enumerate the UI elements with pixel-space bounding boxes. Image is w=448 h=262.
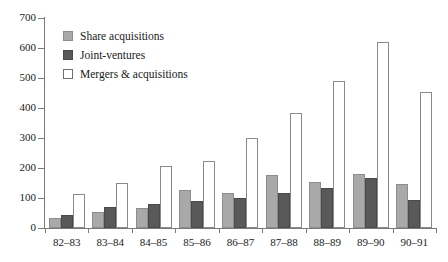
x-axis-label: 88–89 — [306, 236, 349, 248]
x-axis-tick-marks — [45, 228, 436, 233]
y-axis-tick — [38, 18, 44, 19]
x-axis-tick — [436, 228, 437, 233]
bar-group — [262, 18, 305, 228]
bar-ma — [377, 42, 389, 228]
x-axis-label: 85–86 — [175, 236, 218, 248]
x-axis-tick — [306, 228, 307, 233]
bar-jv — [234, 198, 246, 228]
bar-group — [88, 18, 131, 228]
bar-group — [393, 18, 436, 228]
bar-share — [179, 190, 191, 228]
y-axis-label: 0 — [4, 222, 36, 233]
bar-jv — [408, 200, 420, 229]
bar-jv — [278, 193, 290, 228]
bar-ma — [290, 113, 302, 229]
y-axis-tick — [38, 228, 44, 229]
x-axis-tick — [45, 228, 46, 233]
y-axis-tick — [38, 78, 44, 79]
x-axis-label: 83–84 — [88, 236, 131, 248]
bar-group — [349, 18, 392, 228]
bar-group — [45, 18, 88, 228]
y-axis-label: 700 — [4, 12, 36, 23]
y-axis-label: 300 — [4, 132, 36, 143]
bar-ma — [420, 92, 432, 229]
x-axis-tick — [132, 228, 133, 233]
bar-jv — [321, 188, 333, 229]
x-axis-tick — [349, 228, 350, 233]
y-axis-tick — [38, 198, 44, 199]
x-axis-tick — [393, 228, 394, 233]
x-axis-tick — [219, 228, 220, 233]
bar-share — [92, 212, 104, 229]
bar-group — [175, 18, 218, 228]
y-axis-tick — [38, 48, 44, 49]
x-axis-tick — [262, 228, 263, 233]
bar-groups — [45, 18, 436, 228]
bar-group — [306, 18, 349, 228]
bar-chart: 0100200300400500600700 Share acquisition… — [0, 0, 448, 262]
bar-share — [266, 175, 278, 228]
x-axis-label: 87–88 — [262, 236, 305, 248]
bar-share — [353, 174, 365, 228]
bar-jv — [191, 201, 203, 228]
y-axis-label: 600 — [4, 42, 36, 53]
bar-jv — [148, 204, 160, 228]
bar-share — [222, 193, 234, 228]
bar-ma — [203, 161, 215, 229]
bar-share — [136, 208, 148, 228]
bar-ma — [73, 194, 85, 229]
x-axis-label: 82–83 — [45, 236, 88, 248]
bar-ma — [116, 183, 128, 228]
y-axis-label: 500 — [4, 72, 36, 83]
x-axis-tick — [88, 228, 89, 233]
x-axis-labels: 82–8383–8484–8585–8686–8787–8888–8989–90… — [45, 236, 436, 248]
y-axis-label: 400 — [4, 102, 36, 113]
bar-share — [396, 184, 408, 228]
x-axis-label: 86–87 — [219, 236, 262, 248]
x-axis-tick — [175, 228, 176, 233]
bar-share — [309, 182, 321, 229]
y-axis-label: 200 — [4, 162, 36, 173]
y-axis-tick — [38, 138, 44, 139]
y-axis-label: 100 — [4, 192, 36, 203]
x-axis-label: 90–91 — [393, 236, 436, 248]
bar-share — [49, 218, 61, 228]
bar-group — [132, 18, 175, 228]
bar-ma — [333, 81, 345, 228]
bar-group — [219, 18, 262, 228]
bar-ma — [160, 166, 172, 228]
bar-jv — [104, 207, 116, 228]
y-axis-tick — [38, 108, 44, 109]
bar-ma — [246, 138, 258, 228]
x-axis-label: 84–85 — [132, 236, 175, 248]
bar-jv — [365, 178, 377, 228]
bar-jv — [61, 215, 73, 229]
y-axis-labels: 0100200300400500600700 — [0, 0, 36, 262]
y-axis-tick — [38, 168, 44, 169]
x-axis-label: 89–90 — [349, 236, 392, 248]
